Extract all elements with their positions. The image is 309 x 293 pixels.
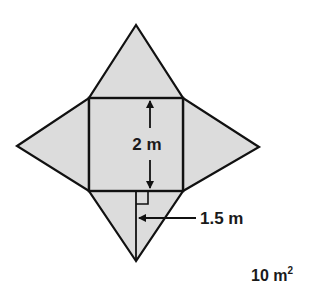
answer-superscript: 2 [287,265,293,276]
pyramid-net-diagram: 2 m 1.5 m 10 m2 [0,0,309,293]
right-triangle-face [183,98,259,191]
surface-area-answer-label: 10 m2 [251,265,293,284]
slant-height-label: 1.5 m [200,209,243,228]
side-length-label: 2 m [132,135,161,154]
left-triangle-face [17,98,89,191]
answer-value: 10 m [251,267,287,284]
top-triangle-face [89,25,183,98]
